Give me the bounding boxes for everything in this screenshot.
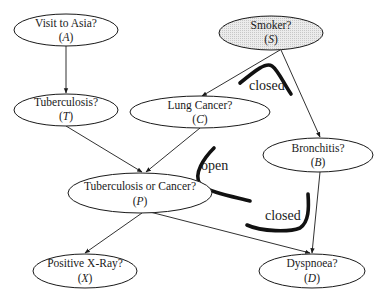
node-variable: (B) bbox=[311, 156, 326, 169]
edge-B-D bbox=[312, 172, 320, 253]
node-label: Bronchitis? bbox=[291, 142, 344, 154]
node-variable: (C) bbox=[192, 113, 208, 126]
open-label: open bbox=[201, 158, 228, 173]
node-visit-to-asia: Visit to Asia? (A) bbox=[14, 14, 118, 46]
node-variable: (S) bbox=[264, 33, 278, 46]
edge-S-B bbox=[281, 50, 320, 137]
edge-T-P bbox=[66, 126, 142, 172]
node-positive-xray: Positive X-Ray? (X) bbox=[33, 254, 137, 288]
node-variable: (X) bbox=[78, 272, 93, 285]
node-bronchitis: Bronchitis? (B) bbox=[263, 138, 373, 172]
node-label: Lung Cancer? bbox=[168, 99, 233, 112]
node-smoker: Smoker? (S) bbox=[219, 16, 323, 50]
node-variable: (A) bbox=[59, 31, 74, 44]
node-lung-cancer: Lung Cancer? (C) bbox=[130, 96, 270, 128]
bayesian-network-diagram: closed open closed Visit to Asia? (A) Sm… bbox=[0, 0, 384, 296]
node-label: Tuberculosis? bbox=[34, 96, 98, 108]
node-label: Visit to Asia? bbox=[35, 17, 97, 29]
node-tuberculosis-or-cancer: Tuberculosis or Cancer? (P) bbox=[68, 173, 212, 213]
closed-label-top: closed bbox=[249, 78, 285, 93]
edge-P-X bbox=[85, 213, 142, 253]
node-variable: (P) bbox=[133, 195, 148, 208]
node-label: Smoker? bbox=[251, 19, 292, 31]
node-tuberculosis: Tuberculosis? (T) bbox=[14, 94, 118, 126]
node-label: Dyspnoea? bbox=[286, 257, 337, 270]
node-variable: (D) bbox=[304, 272, 320, 285]
closed-label-bottom: closed bbox=[265, 208, 301, 223]
node-label: Tuberculosis or Cancer? bbox=[84, 180, 196, 192]
node-dyspnoea: Dyspnoea? (D) bbox=[259, 254, 365, 288]
node-variable: (T) bbox=[59, 110, 73, 123]
node-label: Positive X-Ray? bbox=[47, 257, 123, 270]
edge-C-P bbox=[146, 128, 200, 172]
